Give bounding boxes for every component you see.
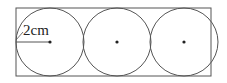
center-dot-1 [48, 40, 51, 43]
radius-label: 2cm [23, 22, 49, 38]
circles-in-rectangle-figure: 2cm [0, 0, 227, 83]
center-dot-2 [115, 40, 118, 43]
diagram-canvas: 2cm [0, 0, 227, 83]
center-dot-3 [182, 40, 185, 43]
